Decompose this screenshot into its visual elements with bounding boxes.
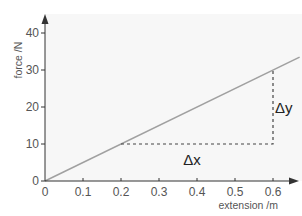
y-tick-label: 20 bbox=[26, 100, 40, 114]
y-tick-label: 30 bbox=[26, 63, 40, 77]
y-tick-label: 0 bbox=[32, 174, 39, 188]
delta-x-label: Δx bbox=[183, 151, 201, 168]
x-tick-label: 0.6 bbox=[265, 185, 282, 199]
x-axis-title: extension /m bbox=[218, 199, 278, 211]
delta-y-label: Δy bbox=[275, 99, 293, 116]
x-tick-label: 0 bbox=[42, 185, 49, 199]
x-tick-label: 0.4 bbox=[189, 185, 206, 199]
x-tick-label: 0.1 bbox=[75, 185, 92, 199]
x-tick-label: 0.5 bbox=[227, 185, 244, 199]
y-tick-label: 10 bbox=[26, 137, 40, 151]
y-tick-label: 40 bbox=[26, 26, 40, 40]
plot-area bbox=[45, 14, 302, 181]
x-tick-label: 0.2 bbox=[113, 185, 130, 199]
force-extension-chart: 00.10.20.30.40.50.6010203040 extension /… bbox=[0, 0, 302, 216]
y-axis-title: force /N bbox=[12, 42, 24, 79]
x-tick-label: 0.3 bbox=[151, 185, 168, 199]
